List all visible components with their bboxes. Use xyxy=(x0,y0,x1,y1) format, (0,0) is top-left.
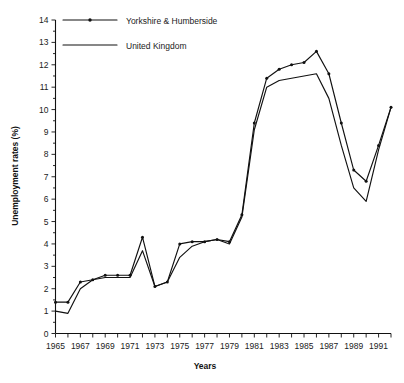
x-tick-label: 1985 xyxy=(295,341,314,351)
x-tick-label: 1989 xyxy=(344,341,363,351)
data-point-marker xyxy=(315,50,318,53)
x-tick-label: 1971 xyxy=(121,341,140,351)
data-point-marker xyxy=(327,72,330,75)
data-point-marker xyxy=(79,281,82,284)
y-tick-label: 8 xyxy=(44,149,49,159)
data-point-marker xyxy=(178,242,181,245)
y-tick-label: 3 xyxy=(44,261,49,271)
data-point-marker xyxy=(340,122,343,125)
data-point-marker xyxy=(265,77,268,80)
legend-label-united-kingdom: United Kingdom xyxy=(126,41,186,51)
x-tick-label: 1973 xyxy=(145,341,164,351)
y-tick-label: 0 xyxy=(44,329,49,339)
legend-label-yorkshire-humberside: Yorkshire & Humberside xyxy=(126,16,218,26)
data-point-marker xyxy=(253,122,256,125)
data-point-marker xyxy=(290,63,293,66)
y-tick-label: 1 xyxy=(44,306,49,316)
data-point-marker xyxy=(352,169,355,172)
legend-swatch-marker-yorkshire xyxy=(88,18,91,21)
y-tick-label: 11 xyxy=(40,82,49,92)
y-tick-label: 14 xyxy=(39,15,49,25)
y-tick-label: 6 xyxy=(44,194,49,204)
data-point-marker xyxy=(365,180,368,183)
x-tick-label: 1965 xyxy=(46,341,65,351)
data-point-marker xyxy=(141,236,144,239)
data-point-marker xyxy=(278,68,281,71)
x-tick-label: 1969 xyxy=(96,341,115,351)
data-point-marker xyxy=(104,274,107,277)
y-tick-label: 7 xyxy=(44,172,49,182)
data-point-marker xyxy=(303,61,306,64)
data-point-marker xyxy=(66,301,69,304)
unemployment-rates-line-chart: 01234567891011121314 Unemployment rates … xyxy=(0,0,404,383)
x-tick-label: 1977 xyxy=(195,341,214,351)
y-tick-label: 10 xyxy=(39,105,49,115)
y-tick-label: 4 xyxy=(44,239,49,249)
x-tick-label: 1987 xyxy=(319,341,338,351)
x-tick-label: 1981 xyxy=(245,341,264,351)
x-tick-label: 1979 xyxy=(220,341,239,351)
y-tick-label: 13 xyxy=(39,37,49,47)
x-tick-label: 1983 xyxy=(270,341,289,351)
x-tick-label: 1991 xyxy=(369,341,388,351)
chart-canvas: 01234567891011121314 Unemployment rates … xyxy=(0,0,404,383)
x-tick-label: 1967 xyxy=(71,341,90,351)
y-tick-label: 2 xyxy=(44,284,49,294)
y-tick-label: 5 xyxy=(44,217,49,227)
data-point-marker xyxy=(191,240,194,243)
x-axis-title: Years xyxy=(194,361,217,371)
y-tick-label: 12 xyxy=(39,60,49,70)
x-tick-label: 1975 xyxy=(170,341,189,351)
y-tick-label: 9 xyxy=(44,127,49,137)
y-axis-title: Unemployment rates (%) xyxy=(10,126,20,226)
chart-background xyxy=(0,0,404,383)
data-point-marker xyxy=(54,301,57,304)
data-point-marker xyxy=(116,274,119,277)
